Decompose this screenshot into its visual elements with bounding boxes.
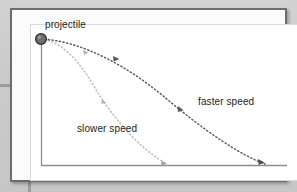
figure-screenshot: projectile faster speed slower speed	[0, 0, 297, 192]
label-slower-speed: slower speed	[77, 124, 137, 134]
arrowhead-slower-2	[101, 99, 106, 104]
projectile-marker	[36, 34, 47, 45]
arrowhead-faster-1	[113, 56, 119, 61]
label-faster-speed: faster speed	[198, 97, 254, 107]
arrowhead-faster-2	[178, 106, 184, 112]
label-projectile: projectile	[45, 20, 86, 30]
arrowhead-slower-1	[83, 50, 88, 55]
projectile-highlight	[38, 36, 41, 39]
